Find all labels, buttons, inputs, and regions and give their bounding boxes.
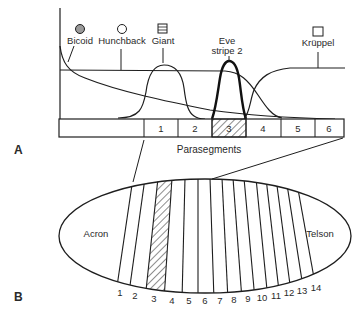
bicoid-curve (60, 46, 335, 119)
hunchback-icon (118, 25, 127, 34)
kruppel-label: Krüppel (302, 37, 335, 48)
parasegment-2: 2 (192, 123, 197, 134)
kruppel-curve (244, 68, 345, 119)
segment-14: 14 (311, 282, 322, 293)
zoom-line-left (133, 140, 144, 182)
eve-stripe2-curve (212, 61, 246, 119)
bicoid-label: Bicoid (67, 35, 93, 46)
segment-12: 12 (284, 287, 295, 298)
segment-11: 11 (271, 290, 281, 301)
eve-label-line2: stripe 2 (211, 45, 242, 56)
parasegments-axis-label: Parasegments (177, 144, 241, 155)
telson-label: Telson (306, 228, 333, 239)
bicoid-icon (76, 25, 85, 34)
bicoid-leader (68, 46, 74, 62)
segment-1: 1 (117, 287, 122, 298)
segment-9: 9 (245, 293, 250, 304)
segment-8: 8 (231, 294, 236, 305)
giant-label: Giant (152, 35, 175, 46)
panel-a-label: A (14, 143, 23, 157)
segment-4: 4 (169, 295, 174, 306)
kruppel-icon (313, 27, 323, 36)
segment-13: 13 (297, 285, 308, 296)
segment-7: 7 (217, 295, 222, 306)
drosophila-segmentation-diagram: Bicoid Hunchback Giant Eve stripe 2 Krüp… (0, 0, 355, 313)
parasegment-1: 1 (158, 123, 163, 134)
parasegment-bar: 1 2 3 4 5 6 (59, 119, 344, 137)
panel-b: Acron Telson 1 2 3 4 5 6 7 8 9 10 11 12 … (14, 178, 351, 306)
hunchback-label: Hunchback (98, 35, 146, 46)
segment-10: 10 (257, 292, 268, 303)
panel-a: Bicoid Hunchback Giant Eve stripe 2 Krüp… (14, 8, 345, 157)
acron-label: Acron (84, 228, 109, 239)
parasegment-3: 3 (226, 123, 231, 134)
segment-3: 3 (151, 293, 156, 304)
parasegment-6: 6 (326, 123, 331, 134)
segment-2: 2 (132, 290, 137, 301)
giant-icon (158, 24, 167, 33)
parasegment-4: 4 (260, 123, 265, 134)
panel-b-label: B (14, 290, 23, 304)
segment-5: 5 (186, 295, 191, 306)
segment-6: 6 (202, 295, 207, 306)
parasegment-5: 5 (295, 123, 300, 134)
